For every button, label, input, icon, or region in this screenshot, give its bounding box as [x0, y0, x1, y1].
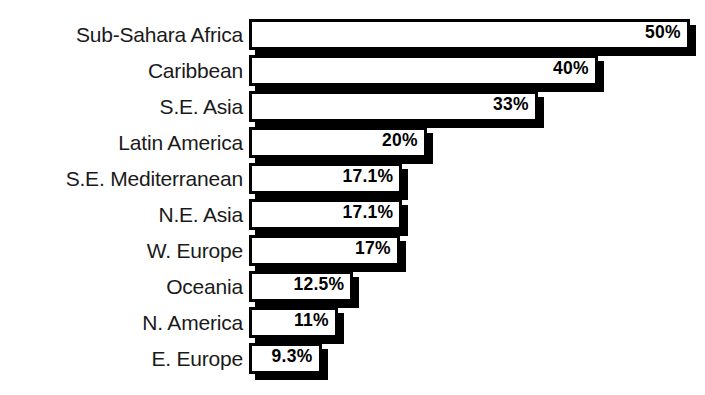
category-label: Sub-Sahara Africa: [0, 19, 243, 50]
bar: 11%: [249, 307, 338, 338]
bar-value-label: 17.1%: [342, 199, 393, 224]
chart-row: Caribbean40%: [0, 55, 705, 91]
chart-row: Sub-Sahara Africa50%: [0, 19, 705, 55]
category-label: Caribbean: [0, 55, 243, 86]
bar: 9.3%: [249, 343, 322, 374]
bar: 20%: [249, 127, 427, 158]
category-label: S.E. Mediterranean: [0, 163, 243, 194]
plot-area: Sub-Sahara Africa50%Caribbean40%S.E. Asi…: [0, 0, 705, 395]
chart-row: S.E. Asia33%: [0, 91, 705, 127]
chart-row: Oceania12.5%: [0, 271, 705, 307]
chart-row: N. America11%: [0, 307, 705, 343]
bar: 17.1%: [249, 163, 402, 194]
bar-body: [249, 19, 690, 50]
bar: 33%: [249, 91, 538, 122]
category-label: N.E. Asia: [0, 199, 243, 230]
category-label: Latin America: [0, 127, 243, 158]
bar-body: [249, 55, 598, 86]
bar-value-label: 33%: [493, 91, 529, 116]
bar-value-label: 20%: [382, 127, 418, 152]
bar: 17.1%: [249, 199, 402, 230]
chart-row: E. Europe9.3%: [0, 343, 705, 379]
bar: 40%: [249, 55, 598, 86]
bar-chart: Sub-Sahara Africa50%Caribbean40%S.E. Asi…: [0, 0, 705, 395]
bar-value-label: 50%: [645, 19, 681, 44]
category-label: E. Europe: [0, 343, 243, 374]
bar-value-label: 40%: [553, 55, 589, 80]
bar: 17%: [249, 235, 400, 266]
category-label: S.E. Asia: [0, 91, 243, 122]
chart-row: N.E. Asia17.1%: [0, 199, 705, 235]
bar: 12.5%: [249, 271, 353, 302]
chart-row: W. Europe17%: [0, 235, 705, 271]
chart-row: Latin America20%: [0, 127, 705, 163]
bar-value-label: 9.3%: [272, 343, 313, 368]
bar: 50%: [249, 19, 690, 50]
category-label: N. America: [0, 307, 243, 338]
chart-row: S.E. Mediterranean17.1%: [0, 163, 705, 199]
bar-value-label: 12.5%: [293, 271, 344, 296]
category-label: W. Europe: [0, 235, 243, 266]
bar-value-label: 17.1%: [342, 163, 393, 188]
bar-value-label: 11%: [294, 307, 329, 332]
category-label: Oceania: [0, 271, 243, 302]
bar-value-label: 17%: [355, 235, 391, 260]
